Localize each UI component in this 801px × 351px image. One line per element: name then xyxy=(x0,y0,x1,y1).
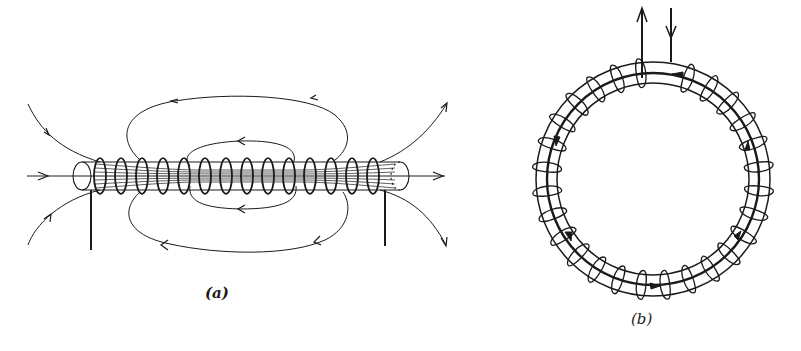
solenoid-diagram xyxy=(27,95,447,252)
toroid-core xyxy=(536,62,770,296)
toroid-coil-turns xyxy=(533,59,774,299)
solenoid-lead-wires xyxy=(91,190,385,250)
panel-b-label: (b) xyxy=(631,310,652,328)
axis-field-line xyxy=(27,172,445,180)
toroid-flux-path xyxy=(547,72,759,289)
panel-a-label: (a) xyxy=(205,284,229,302)
toroid-diagram xyxy=(533,8,774,299)
figure-canvas xyxy=(0,0,801,351)
toroid-lead-wires xyxy=(637,8,676,78)
